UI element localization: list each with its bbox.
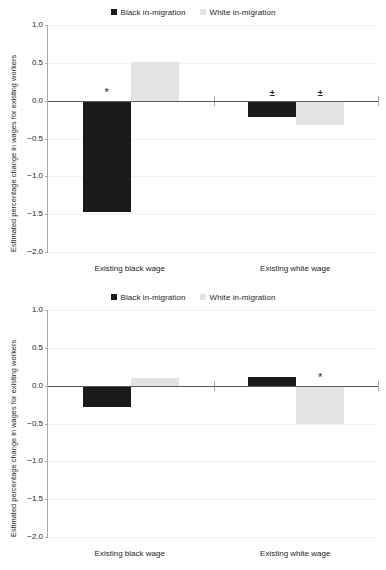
y-axis-tick-label: 0.5: [14, 58, 48, 68]
gridline: [48, 214, 378, 215]
y-axis-tick-label: 0.0: [14, 96, 48, 106]
zero-baseline: [48, 386, 378, 387]
legend-entry-black-in-migration[interactable]: Black in-migration: [111, 8, 186, 17]
y-axis-tick-label: −2.0: [14, 247, 48, 257]
gridline: [48, 25, 378, 26]
y-axis-label: Estimated percentage change in wages for…: [9, 340, 18, 537]
y-axis-tick-label: 1.0: [14, 20, 48, 30]
x-axis-category-label: Existing white wage: [213, 549, 379, 559]
plot-area: 1.00.50.0−0.5−1.0−1.5−2.0*±±: [47, 25, 378, 252]
x-axis-category-label: Existing white wage: [213, 264, 379, 274]
bar-black-in-migration[interactable]: [83, 386, 131, 407]
plot-area: 1.00.50.0−0.5−1.0−1.5−2.0*: [47, 310, 378, 537]
bar-white-in-migration[interactable]: [296, 101, 344, 125]
gridline: [48, 63, 378, 64]
legend-label: White in-migration: [210, 293, 276, 302]
square-marker-icon: [200, 294, 206, 300]
axis-end-cap: [378, 96, 379, 106]
gridline: [48, 310, 378, 311]
chart-panel-bottom: Black in-migrationWhite in-migrationEsti…: [0, 285, 386, 570]
bar-black-in-migration[interactable]: [248, 377, 296, 385]
y-axis-tick-label: −1.0: [14, 171, 48, 181]
zero-baseline: [48, 101, 378, 102]
gridline: [48, 499, 378, 500]
square-marker-icon: [111, 9, 117, 15]
y-axis-tick-label: −1.0: [14, 456, 48, 466]
y-axis-tick-label: −1.5: [14, 494, 48, 504]
chart-legend: Black in-migrationWhite in-migration: [0, 5, 386, 19]
significance-annotation: ±: [248, 89, 296, 98]
legend-entry-white-in-migration[interactable]: White in-migration: [200, 293, 276, 302]
bar-black-in-migration[interactable]: [248, 101, 296, 118]
axis-end-cap: [378, 381, 379, 391]
y-axis-tick-label: −0.5: [14, 134, 48, 144]
significance-annotation: *: [83, 88, 131, 97]
y-axis-label: Estimated percentage change in wages for…: [9, 55, 18, 252]
bar-white-in-migration[interactable]: [131, 62, 179, 101]
bar-black-in-migration[interactable]: [83, 101, 131, 212]
x-axis-category-label: Existing black wage: [47, 264, 213, 274]
bar-white-in-migration[interactable]: [131, 378, 179, 386]
y-axis-tick-label: −2.0: [14, 532, 48, 542]
gridline: [48, 252, 378, 253]
significance-annotation: *: [296, 373, 344, 382]
figure-two-panel-bar-chart: Black in-migrationWhite in-migrationEsti…: [0, 0, 386, 570]
y-axis-tick-label: −0.5: [14, 419, 48, 429]
legend-label: Black in-migration: [121, 8, 186, 17]
y-axis-tick-label: 0.0: [14, 381, 48, 391]
bar-white-in-migration[interactable]: [296, 386, 344, 425]
legend-entry-white-in-migration[interactable]: White in-migration: [200, 8, 276, 17]
legend-entry-black-in-migration[interactable]: Black in-migration: [111, 293, 186, 302]
square-marker-icon: [200, 9, 206, 15]
chart-legend: Black in-migrationWhite in-migration: [0, 290, 386, 304]
significance-annotation: ±: [296, 89, 344, 98]
chart-panel-top: Black in-migrationWhite in-migrationEsti…: [0, 0, 386, 285]
gridline: [48, 537, 378, 538]
y-axis-tick-label: 0.5: [14, 343, 48, 353]
legend-label: White in-migration: [210, 8, 276, 17]
square-marker-icon: [111, 294, 117, 300]
y-axis-tick-label: 1.0: [14, 305, 48, 315]
gridline: [48, 461, 378, 462]
legend-label: Black in-migration: [121, 293, 186, 302]
gridline: [48, 348, 378, 349]
x-axis-category-label: Existing black wage: [47, 549, 213, 559]
y-axis-tick-label: −1.5: [14, 209, 48, 219]
